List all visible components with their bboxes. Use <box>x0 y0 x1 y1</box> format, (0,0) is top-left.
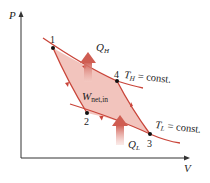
point-label-4: 4 <box>114 69 119 80</box>
point-label-1: 1 <box>50 34 55 45</box>
qh-label: QH <box>96 41 110 55</box>
x-axis-label: V <box>184 162 192 174</box>
y-axis-arrowhead <box>19 11 24 17</box>
direction-arrow-1-2 <box>65 82 69 87</box>
state-point-1 <box>51 46 55 50</box>
state-point-3 <box>148 132 152 136</box>
state-point-2 <box>85 111 89 115</box>
pv-diagram: P V 1 2 3 4 TH = const. TL = const. QH Q… <box>0 0 210 183</box>
ql-label: QL <box>128 138 140 152</box>
point-label-3: 3 <box>147 138 152 149</box>
x-axis-arrowhead <box>184 156 190 161</box>
y-axis-label: P <box>8 9 16 21</box>
cycle-area <box>53 48 150 134</box>
th-const-label: TH = const. <box>124 69 172 87</box>
tl-const-label: TL = const. <box>155 119 202 137</box>
point-label-2: 2 <box>84 116 89 127</box>
